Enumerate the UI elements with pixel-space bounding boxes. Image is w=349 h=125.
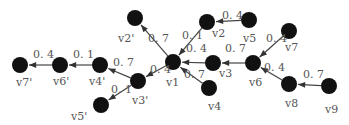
node-label: v5 bbox=[242, 32, 256, 45]
edge-weight-label: 0. 1 bbox=[111, 83, 132, 96]
node-label: v2 bbox=[211, 27, 225, 40]
edge-v3-to-v1 bbox=[182, 62, 205, 63]
node-v6 bbox=[245, 55, 261, 71]
edge-weight-label: 0. 4 bbox=[264, 61, 285, 74]
node-label: v9 bbox=[324, 103, 338, 116]
node-v3p bbox=[130, 73, 146, 89]
node-v5p bbox=[93, 97, 109, 113]
edge-weight-label: 0. 1 bbox=[182, 29, 203, 42]
edge-weight-label: 0. 1 bbox=[73, 48, 94, 61]
edge-weight-label: 0. 7 bbox=[303, 68, 324, 81]
edge-weight-label: 0. 7 bbox=[113, 56, 134, 69]
node-label: v1 bbox=[165, 76, 179, 89]
node-label: v3 bbox=[218, 67, 232, 80]
node-v4p bbox=[92, 57, 108, 73]
node-label: v4' bbox=[88, 75, 105, 88]
graph-diagram: 0. 70. 10. 40. 40. 70. 40. 40. 70. 70. 4… bbox=[0, 0, 349, 125]
edge-weight-label: 0. 4 bbox=[222, 9, 243, 22]
node-label: v4 bbox=[207, 100, 221, 113]
edge-v9-to-v8 bbox=[298, 84, 321, 85]
node-label: v6 bbox=[248, 76, 262, 89]
node-label: v6' bbox=[52, 75, 69, 88]
node-label: v7' bbox=[15, 76, 32, 89]
edge-weight-label: 0. 4 bbox=[33, 48, 54, 61]
node-v2p bbox=[127, 10, 143, 26]
node-label: v5' bbox=[70, 110, 87, 123]
edge-weight-label: 0. 7 bbox=[184, 68, 205, 81]
edge-weight-label: 0. 7 bbox=[148, 32, 169, 45]
node-v6p bbox=[52, 57, 68, 73]
node-label: v3' bbox=[131, 94, 148, 107]
node-v8 bbox=[281, 76, 297, 92]
edge-weight-label: 0. 4 bbox=[150, 63, 171, 76]
edge-weight-label: 0. 4 bbox=[186, 42, 207, 55]
edge-v3p-to-v4p bbox=[108, 68, 130, 77]
node-label: v7 bbox=[284, 41, 298, 54]
node-label: v8 bbox=[284, 97, 298, 110]
node-v7p bbox=[12, 57, 28, 73]
node-v4 bbox=[201, 80, 217, 96]
node-label: v2' bbox=[117, 32, 134, 45]
node-v5 bbox=[241, 12, 257, 28]
edge-weight-label: 0. 4 bbox=[266, 32, 287, 45]
